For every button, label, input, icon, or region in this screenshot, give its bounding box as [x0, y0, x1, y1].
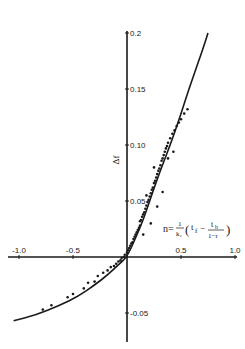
x-tick-label: 1.0 [229, 246, 241, 255]
y-tick-label: 0.2 [130, 29, 142, 38]
data-point [124, 254, 127, 257]
data-point [180, 118, 183, 121]
data-point [142, 213, 145, 216]
data-point [150, 192, 153, 195]
equation-frac2-den: 1−r [208, 232, 218, 240]
scatter-points [42, 108, 189, 311]
data-point [115, 262, 118, 265]
data-point [50, 304, 53, 307]
y-tick-label: 0.10 [130, 141, 146, 150]
data-point [146, 201, 149, 204]
data-point [178, 121, 181, 124]
data-point [164, 150, 167, 153]
data-point [150, 222, 153, 225]
y-tick-label: -0.05 [130, 309, 149, 318]
data-point [183, 112, 186, 115]
data-point [155, 176, 158, 179]
data-point [135, 231, 138, 234]
data-point [83, 287, 86, 290]
data-point [172, 150, 175, 153]
y-axis-label-text: Δf [111, 156, 121, 165]
data-point [102, 271, 105, 274]
data-point [97, 275, 100, 278]
data-point [142, 233, 145, 236]
data-point [158, 167, 161, 170]
data-point [159, 164, 162, 167]
data-point [167, 142, 170, 145]
data-point [139, 224, 142, 227]
data-point [134, 233, 137, 236]
chart-plot: -1.0-0.50.51.00.20.150.100.05-0.05 Δf n=… [0, 0, 245, 349]
equation-term1-sub: f [195, 227, 198, 235]
data-point [167, 157, 170, 160]
data-point [144, 208, 147, 211]
data-point [120, 257, 123, 260]
data-point [147, 199, 150, 202]
data-point [127, 249, 130, 252]
data-point [162, 154, 165, 157]
data-point [119, 259, 122, 262]
y-axis-label: Δf [111, 156, 121, 165]
data-point [154, 180, 157, 183]
data-point [169, 137, 172, 140]
equation-close-paren: ) [226, 222, 230, 237]
data-point [153, 182, 156, 185]
equation-frac-den: k₂ [176, 230, 183, 238]
x-tick-label: -0.5 [66, 246, 80, 255]
data-point [140, 219, 143, 222]
data-point [145, 194, 148, 197]
equation-open-paren: ( [185, 222, 189, 237]
data-point [113, 265, 116, 268]
data-point [143, 211, 146, 214]
data-point [160, 159, 163, 162]
data-point [175, 125, 178, 128]
fitted-curve [14, 33, 208, 321]
equation-lhs: n= [163, 223, 174, 234]
y-tick-label: 0.05 [130, 197, 146, 206]
data-point [110, 266, 113, 269]
equation-frac-num: 1 [178, 220, 182, 228]
data-point [66, 296, 69, 299]
equation-term1: t [191, 222, 194, 232]
data-point [166, 145, 169, 148]
data-point [132, 238, 135, 241]
data-point [145, 204, 148, 207]
data-point [153, 166, 156, 169]
data-point [161, 157, 164, 160]
data-point [151, 189, 154, 192]
equation-frac2-num: t [211, 220, 214, 229]
data-point [171, 133, 174, 136]
data-point [42, 308, 45, 311]
y-tick-label: 0.15 [130, 85, 146, 94]
data-point [129, 245, 132, 248]
data-point [138, 227, 141, 230]
data-point [106, 269, 109, 272]
data-point [126, 251, 129, 254]
data-point [152, 186, 155, 189]
data-point [93, 280, 96, 283]
axes [8, 31, 237, 342]
data-point [173, 129, 176, 132]
data-point [161, 191, 164, 194]
x-tick-label: -1.0 [12, 246, 26, 255]
x-tick-label: 0.5 [175, 246, 187, 255]
data-point [165, 147, 168, 150]
data-point [157, 170, 160, 173]
curve-path [14, 33, 208, 321]
equation-annotation: n= 1 k₂ ( t f − t b 1−r ) [163, 220, 230, 240]
data-point [137, 229, 140, 232]
data-point [156, 205, 159, 208]
data-point [148, 195, 151, 198]
equation-frac2-num-sub: b [215, 224, 218, 230]
data-point [131, 241, 134, 244]
data-point [72, 293, 75, 296]
data-point [156, 173, 159, 176]
data-point [186, 108, 189, 111]
equation-minus: − [200, 223, 205, 233]
data-point [87, 282, 90, 285]
data-point [141, 215, 144, 218]
